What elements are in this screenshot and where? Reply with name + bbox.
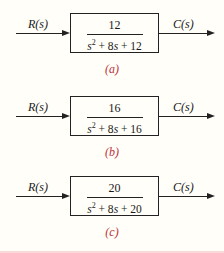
numerator: 16 (71, 102, 158, 115)
denominator: s2 + 8s + 20 (71, 199, 158, 216)
denominator: s2 + 8s + 16 (71, 119, 158, 136)
fraction-bar (87, 117, 143, 118)
transfer-function-block: 12 s2 + 8s + 12 (70, 13, 159, 53)
output-label: C(s) (173, 100, 194, 115)
output-arrow-icon (207, 30, 215, 36)
output-label: C(s) (173, 17, 194, 32)
output-signal-line (159, 116, 209, 117)
numerator: 20 (71, 182, 158, 195)
block-diagram-a: R(s) 12 s2 + 8s + 12 C(s) (a) (0, 0, 224, 80)
numerator: 12 (71, 19, 158, 32)
input-arrow-icon (62, 193, 70, 199)
input-signal-line (16, 116, 64, 117)
caption: (c) (0, 225, 224, 240)
input-signal-line (16, 196, 64, 197)
fraction-bar (87, 34, 143, 35)
output-label: C(s) (173, 180, 194, 195)
output-signal-line (159, 196, 209, 197)
transfer-function: 16 s2 + 8s + 16 (71, 102, 158, 136)
input-label: R(s) (28, 100, 48, 115)
block-diagram-b: R(s) 16 s2 + 8s + 16 C(s) (b) (0, 83, 224, 163)
output-arrow-icon (207, 113, 215, 119)
output-arrow-icon (207, 193, 215, 199)
caption: (a) (0, 62, 224, 77)
fraction-bar (87, 197, 143, 198)
block-diagram-c: R(s) 20 s2 + 8s + 20 C(s) (c) (0, 163, 224, 243)
transfer-function-block: 16 s2 + 8s + 16 (70, 96, 159, 136)
denominator: s2 + 8s + 12 (71, 36, 158, 53)
input-arrow-icon (62, 30, 70, 36)
transfer-function-block: 20 s2 + 8s + 20 (70, 176, 159, 216)
input-label: R(s) (28, 180, 48, 195)
transfer-function: 20 s2 + 8s + 20 (71, 182, 158, 216)
transfer-function: 12 s2 + 8s + 12 (71, 19, 158, 53)
input-signal-line (16, 33, 64, 34)
output-signal-line (159, 33, 209, 34)
input-label: R(s) (28, 17, 48, 32)
caption: (b) (0, 145, 224, 160)
input-arrow-icon (62, 113, 70, 119)
